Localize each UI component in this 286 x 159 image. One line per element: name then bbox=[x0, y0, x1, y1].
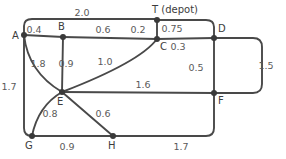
node-label-b: B bbox=[58, 21, 65, 32]
node-f[interactable] bbox=[211, 90, 217, 96]
edge-weight-label-c-e: 1.0 bbox=[97, 56, 112, 67]
edge-weight-label-d-f: 1.5 bbox=[258, 60, 273, 71]
node-label-c: C bbox=[160, 41, 167, 52]
edge-weight-label-h-f: 1.7 bbox=[173, 141, 188, 152]
node-label-h: H bbox=[108, 140, 116, 151]
edge-weight-label-a-g: 1.7 bbox=[1, 81, 16, 92]
weighted-graph-figure: 2.00.40.60.20.750.30.51.51.80.91.01.71.6… bbox=[0, 0, 286, 159]
node-label-g: G bbox=[25, 140, 33, 151]
edges-group bbox=[24, 19, 262, 136]
edge-weight-label-c-t: 0.2 bbox=[130, 24, 145, 35]
nodes-group bbox=[21, 17, 217, 139]
node-e[interactable] bbox=[59, 89, 65, 95]
node-h[interactable] bbox=[110, 133, 116, 139]
node-label-f: F bbox=[218, 95, 224, 106]
edge-weight-label-c-d: 0.3 bbox=[170, 41, 185, 52]
node-b[interactable] bbox=[60, 34, 66, 40]
edge-weight-label-b-c: 0.6 bbox=[95, 24, 110, 35]
node-label-t: T (depot) bbox=[151, 4, 198, 15]
edge-h-f bbox=[113, 93, 214, 136]
node-d[interactable] bbox=[211, 35, 217, 41]
edge-weight-label-b-e: 0.9 bbox=[58, 58, 73, 69]
edge-b-c bbox=[63, 37, 157, 39]
edge-weight-label-a-e: 1.8 bbox=[30, 58, 45, 69]
edge-c-d bbox=[157, 38, 214, 39]
edge-weight-label-d-f: 0.5 bbox=[188, 62, 203, 73]
edge-labels-group: 2.00.40.60.20.750.30.51.51.80.91.01.71.6… bbox=[1, 7, 273, 152]
node-t[interactable] bbox=[154, 17, 160, 23]
node-label-a: A bbox=[12, 30, 19, 41]
edge-weight-label-e-g: 0.8 bbox=[42, 108, 57, 119]
edge-e-f bbox=[62, 92, 214, 93]
edge-weight-label-e-h: 0.6 bbox=[95, 108, 110, 119]
edge-weight-label-t-d: 0.75 bbox=[161, 23, 182, 34]
edge-weight-label-a-b: 0.4 bbox=[26, 24, 41, 35]
edge-weight-label-a-t: 2.0 bbox=[74, 7, 89, 18]
edge-a-b bbox=[24, 35, 63, 37]
node-g[interactable] bbox=[29, 133, 35, 139]
edge-weight-label-e-f: 1.6 bbox=[135, 79, 150, 90]
edge-weight-label-g-h: 0.9 bbox=[59, 141, 74, 152]
node-a[interactable] bbox=[21, 32, 27, 38]
graph-canvas: 2.00.40.60.20.750.30.51.51.80.91.01.71.6… bbox=[0, 0, 286, 159]
edge-d-f bbox=[214, 38, 262, 93]
node-label-d: D bbox=[218, 23, 226, 34]
node-label-e: E bbox=[57, 96, 63, 107]
